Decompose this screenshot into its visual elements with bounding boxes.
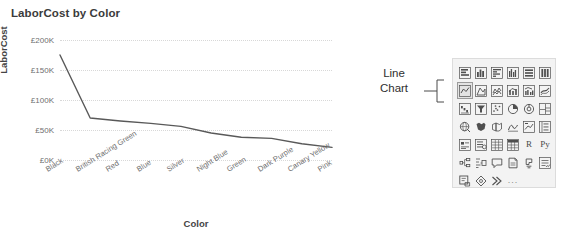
hundred-percent-stacked-column-chart-icon[interactable] [537, 64, 553, 81]
pie-chart-icon[interactable] [505, 100, 521, 117]
x-axis-tick-label: Red [104, 159, 121, 174]
line-chart-visual[interactable]: LaborCost by Color £200K£150K£100K£50K£0… [0, 0, 345, 250]
callout-line-1: Line [368, 66, 420, 81]
qna-visual-icon[interactable] [489, 154, 505, 171]
map-icon[interactable] [457, 118, 473, 135]
line-and-stacked-column-chart-icon[interactable] [505, 82, 521, 99]
azure-map-icon[interactable] [473, 172, 489, 189]
decomposition-tree-icon[interactable] [457, 154, 473, 171]
multi-row-card-icon[interactable] [537, 118, 553, 135]
clustered-bar-chart-icon[interactable] [489, 64, 505, 81]
line-and-clustered-column-chart-icon[interactable] [521, 82, 537, 99]
filled-map-icon[interactable] [473, 118, 489, 135]
arcgis-map-icon[interactable] [505, 118, 521, 135]
r-script-visual-icon-label: R [526, 140, 532, 149]
line-chart-icon[interactable] [457, 82, 473, 99]
slicer-icon[interactable] [473, 136, 489, 153]
ribbon-chart-icon[interactable] [537, 82, 553, 99]
callout-bracket-icon [424, 78, 450, 104]
stacked-area-chart-icon[interactable] [489, 82, 505, 99]
waterfall-chart-icon[interactable] [457, 100, 473, 117]
stacked-bar-chart-icon[interactable] [457, 64, 473, 81]
x-axis-tick-label: Green [225, 155, 248, 174]
callout-line-2: Chart [368, 81, 420, 96]
arrow-visual-icon[interactable] [489, 172, 505, 189]
more-options-ellipsis[interactable]: ... [505, 172, 521, 189]
power-automate-icon[interactable] [457, 172, 473, 189]
treemap-icon[interactable] [537, 100, 553, 117]
hundred-percent-stacked-bar-chart-icon[interactable] [521, 64, 537, 81]
x-axis-tick-label: Silver [165, 156, 186, 174]
x-axis-tick-label: Night Blue [195, 147, 229, 173]
card-icon[interactable] [457, 136, 473, 153]
x-axis-tick-labels: BlackBritish Racing GreenRedBlueSilverNi… [0, 0, 345, 250]
x-axis-title: Color [60, 218, 332, 229]
area-chart-icon[interactable] [473, 82, 489, 99]
paginated-report-icon[interactable] [505, 154, 521, 171]
key-influencers-icon[interactable] [473, 154, 489, 171]
stacked-column-chart-icon[interactable] [473, 64, 489, 81]
visualization-type-grid[interactable]: RPy... [457, 64, 552, 189]
visualizations-pane[interactable]: RPy... [452, 58, 556, 188]
clustered-column-chart-icon[interactable] [505, 64, 521, 81]
kpi-icon[interactable] [521, 118, 537, 135]
python-visual-icon[interactable]: Py [537, 136, 553, 153]
x-axis-tick-label: Blue [135, 158, 153, 174]
x-axis-tick-label: Black [44, 156, 65, 173]
matrix-icon[interactable] [505, 136, 521, 153]
power-apps-icon[interactable] [521, 154, 537, 171]
table-icon[interactable] [489, 136, 505, 153]
shape-map-icon[interactable] [489, 118, 505, 135]
donut-chart-icon[interactable] [521, 100, 537, 117]
r-script-visual-icon[interactable]: R [521, 136, 537, 153]
funnel-chart-icon[interactable] [473, 100, 489, 117]
scatter-chart-icon[interactable] [489, 100, 505, 117]
smart-narrative-icon[interactable] [537, 154, 553, 171]
callout-annotation: Line Chart [368, 66, 420, 96]
x-axis-tick-label: Pink [316, 158, 333, 173]
more-options-ellipsis-label: ... [508, 176, 519, 185]
python-visual-icon-label: Py [540, 140, 550, 149]
